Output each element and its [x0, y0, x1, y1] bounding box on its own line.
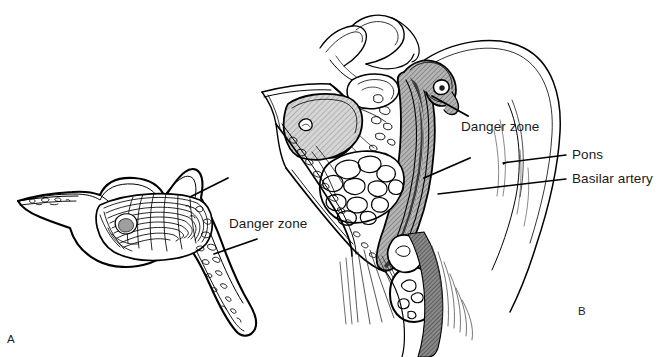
panel-letter-b: B — [578, 306, 586, 318]
septum-shadow-a — [118, 219, 133, 232]
label-danger-zone-panel-a: Danger zone — [229, 217, 307, 231]
panel-letter-a: A — [7, 334, 15, 346]
label-danger-zone-panel-b: Danger zone — [461, 120, 539, 134]
label-basilar-artery: Basilar artery — [572, 172, 653, 186]
anatomy-figure: Danger zone Danger zone Pons Basilar art… — [0, 0, 672, 357]
label-pons: Pons — [572, 148, 603, 162]
